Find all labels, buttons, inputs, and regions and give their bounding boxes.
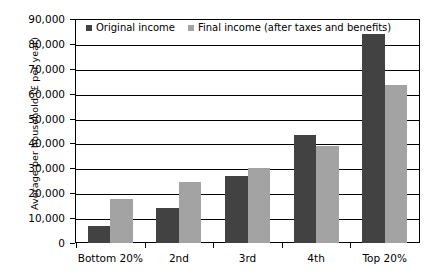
bar-original-income bbox=[225, 176, 248, 243]
bar-final-income bbox=[179, 182, 202, 243]
y-axis-tick-label: 80,000 bbox=[28, 38, 65, 50]
x-axis-tick-label: Bottom 20% bbox=[78, 252, 143, 264]
y-axis-tick bbox=[70, 243, 75, 244]
y-axis-tick-label: 50,000 bbox=[28, 113, 65, 125]
bar-original-income bbox=[88, 226, 111, 243]
bar-group bbox=[362, 19, 407, 243]
x-axis-tick-label: 2nd bbox=[169, 252, 189, 264]
x-axis-tick-label: 4th bbox=[307, 252, 324, 264]
y-axis-tick-label: 60,000 bbox=[28, 88, 65, 100]
bar-final-income bbox=[316, 146, 339, 243]
y-axis-tick-label: 30,000 bbox=[28, 162, 65, 174]
x-axis-tick bbox=[213, 243, 214, 248]
bar-group bbox=[88, 19, 133, 243]
y-axis-tick-label: 90,000 bbox=[28, 13, 65, 25]
legend-item-final: Final income (after taxes and benefits) bbox=[188, 23, 391, 33]
bar-chart: Average per household (£ per year) 010,0… bbox=[0, 0, 432, 280]
bar-final-income bbox=[385, 85, 408, 243]
x-axis-tick-label: Top 20% bbox=[362, 252, 406, 264]
bars-container bbox=[76, 19, 419, 243]
y-axis-tick-label: 0 bbox=[58, 237, 65, 249]
bar-final-income bbox=[110, 199, 133, 243]
legend-swatch-icon bbox=[86, 25, 92, 31]
bar-group bbox=[294, 19, 339, 243]
bar-original-income bbox=[156, 208, 179, 243]
bar-final-income bbox=[248, 168, 271, 243]
bar-original-income bbox=[294, 135, 317, 243]
y-axis-tick-label: 20,000 bbox=[28, 187, 65, 199]
x-axis-tick-label: 3rd bbox=[239, 252, 256, 264]
x-axis-ticks bbox=[76, 243, 419, 249]
x-axis-tick bbox=[145, 243, 146, 248]
bar-group bbox=[225, 19, 270, 243]
y-axis-tick-label: 70,000 bbox=[28, 63, 65, 75]
chart-legend: Original income Final income (after taxe… bbox=[84, 22, 393, 34]
legend-item-original: Original income bbox=[86, 23, 175, 33]
legend-label-final: Final income (after taxes and benefits) bbox=[198, 23, 391, 33]
y-axis-labels: 010,00020,00030,00040,00050,00060,00070,… bbox=[0, 0, 75, 280]
bar-group bbox=[156, 19, 201, 243]
y-axis-tick-label: 40,000 bbox=[28, 137, 65, 149]
legend-swatch-icon bbox=[188, 25, 194, 31]
y-axis-tick-label: 10,000 bbox=[28, 212, 65, 224]
x-axis-labels: Bottom 20%2nd3rd4thTop 20% bbox=[76, 252, 419, 268]
x-axis-tick bbox=[282, 243, 283, 248]
x-axis-tick bbox=[350, 243, 351, 248]
bar-original-income bbox=[362, 31, 385, 243]
x-axis-tick bbox=[76, 243, 77, 248]
legend-label-original: Original income bbox=[96, 23, 175, 33]
